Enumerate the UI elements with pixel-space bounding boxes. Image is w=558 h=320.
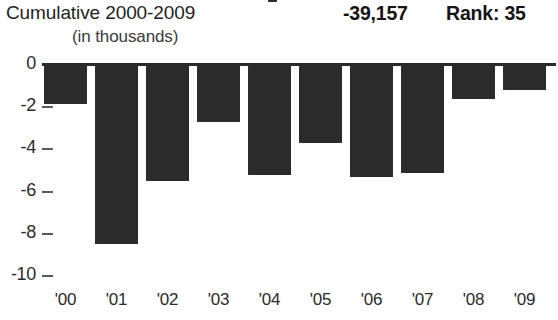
y-axis-tick-label: 0 bbox=[0, 53, 36, 74]
bar bbox=[401, 65, 444, 173]
y-axis-tick-mark bbox=[42, 275, 53, 277]
bar bbox=[95, 65, 138, 244]
bar bbox=[146, 65, 189, 181]
x-axis-tick-label: '03 bbox=[193, 290, 244, 310]
x-axis-tick-label: '01 bbox=[91, 290, 142, 310]
bar bbox=[299, 65, 342, 143]
x-axis-tick-label: '04 bbox=[244, 290, 295, 310]
x-axis-tick-label: '00 bbox=[40, 290, 91, 310]
y-axis-tick-mark bbox=[42, 148, 53, 150]
chart-page: Cumulative 2000-2009 -39,157 Rank: 35 (i… bbox=[0, 0, 558, 320]
bar bbox=[350, 65, 393, 177]
y-axis-tick-label: -4 bbox=[0, 137, 36, 158]
y-axis-tick-label: -2 bbox=[0, 95, 36, 116]
bar bbox=[452, 65, 495, 99]
bar-chart-plot: 0-2-4-6-8-10 '00'01'02'03'04'05'06'07'08… bbox=[0, 0, 558, 320]
zero-baseline bbox=[42, 63, 556, 66]
x-axis-tick-label: '07 bbox=[397, 290, 448, 310]
bar bbox=[44, 65, 87, 104]
x-axis-tick-label: '09 bbox=[499, 290, 550, 310]
y-axis-tick-mark bbox=[42, 233, 53, 235]
x-axis-tick-label: '06 bbox=[346, 290, 397, 310]
x-axis-tick-label: '05 bbox=[295, 290, 346, 310]
x-axis-tick-label: '02 bbox=[142, 290, 193, 310]
y-axis-tick-label: -8 bbox=[0, 222, 36, 243]
x-axis-tick-label: '08 bbox=[448, 290, 499, 310]
bar bbox=[197, 65, 240, 122]
y-axis-tick-mark bbox=[42, 106, 53, 108]
y-axis-tick-label: -10 bbox=[0, 264, 36, 285]
bar bbox=[248, 65, 291, 175]
bar bbox=[503, 65, 546, 90]
y-axis-tick-mark bbox=[42, 191, 53, 193]
y-axis-tick-label: -6 bbox=[0, 180, 36, 201]
